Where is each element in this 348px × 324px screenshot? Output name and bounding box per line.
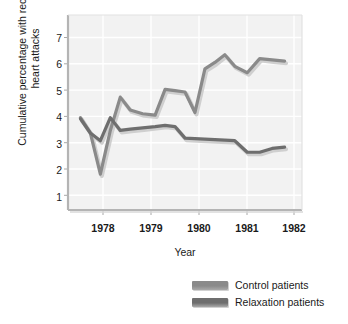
x-tick-1981: 1981 — [227, 222, 267, 234]
chart-figure: Cumulative percentage with recurrent hea… — [0, 0, 348, 324]
legend-item-relaxation: Relaxation patients — [192, 295, 324, 309]
chart-legend: Control patients Relaxation patients — [192, 278, 324, 312]
y-tick-7: 7 — [46, 32, 62, 44]
legend-swatch-relaxation — [192, 298, 228, 307]
legend-label-relaxation: Relaxation patients — [235, 296, 324, 308]
legend-item-control: Control patients — [192, 278, 324, 292]
x-tick-1980: 1980 — [179, 222, 219, 234]
y-tick-5: 5 — [46, 85, 62, 97]
plot-canvas — [0, 0, 348, 324]
y-tick-6: 6 — [46, 58, 62, 70]
x-tick-1978: 1978 — [83, 222, 123, 234]
legend-swatch-control — [192, 281, 228, 290]
y-tick-3: 3 — [46, 138, 62, 150]
y-tick-1: 1 — [46, 191, 62, 203]
legend-label-control: Control patients — [235, 279, 309, 291]
x-tick-1979: 1979 — [131, 222, 171, 234]
y-axis-label: Cumulative percentage with recurrent hea… — [16, 0, 41, 149]
y-tick-2: 2 — [46, 164, 62, 176]
x-axis-label: Year — [68, 246, 302, 258]
y-tick-4: 4 — [46, 111, 62, 123]
x-tick-1982: 1982 — [274, 222, 314, 234]
